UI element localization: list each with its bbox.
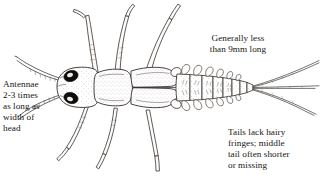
gill-right-2 (194, 100, 202, 110)
leg-mid-left-tarsus (126, 4, 135, 16)
abdomen-segment-7 (240, 81, 247, 95)
gill-left-5 (227, 72, 233, 79)
abdomen-segment-3 (202, 75, 213, 99)
abdomen-segment-4 (213, 76, 223, 98)
abdomen-segment-1 (176, 74, 190, 101)
gill-left-2 (194, 65, 202, 75)
leg-front-right-tarsus (57, 147, 69, 160)
antenna-left-upper (17, 57, 62, 79)
gill-right-1 (182, 101, 190, 111)
body-group (57, 65, 253, 111)
gill-left-3 (206, 67, 213, 76)
gill-left-4 (217, 69, 224, 77)
abdomen-segment-8 (247, 82, 253, 92)
antenna-left-tip (15, 56, 17, 57)
prothorax (94, 69, 132, 106)
leg-hind-right (146, 110, 158, 156)
gill-right-3 (206, 99, 213, 108)
caption-body-length: Generally less than 9mm long (192, 33, 284, 55)
abdomen-segment-5 (223, 78, 232, 98)
abdomen-segment-2 (190, 75, 202, 101)
abdomen-segment-6 (232, 79, 240, 96)
wing-pad-right (131, 88, 177, 108)
antenna-left-upper-b (17, 61, 62, 82)
gill-right-5 (227, 96, 233, 103)
leg-hind-right-tarsus (155, 156, 160, 171)
wing-pad-left (131, 67, 177, 87)
leg-mid-right (103, 108, 118, 155)
caption-tails: Tails lack hairy fringes; middle tail of… (228, 127, 320, 171)
figure-canvas: Antennae 2-3 times as long as width of h… (0, 0, 321, 189)
leg-hind-left-tarsus (169, 4, 181, 20)
tail-lower-b (253, 90, 314, 115)
leg-mid-left (115, 16, 129, 72)
leg-hind-left (146, 18, 172, 70)
gill-left-6 (236, 74, 241, 80)
tail-middle (253, 86, 319, 88)
gill-left-1 (182, 65, 190, 75)
tail-upper (253, 61, 319, 86)
tail-filaments (253, 61, 319, 116)
leg-mid-right-tarsus (96, 154, 106, 169)
leg-front-left-tarsus (73, 9, 85, 17)
abdomen (176, 74, 253, 101)
gill-right-6 (236, 95, 241, 101)
gill-right-4 (217, 98, 224, 106)
caption-antennae: Antennae 2-3 times as long as width of h… (3, 79, 73, 134)
